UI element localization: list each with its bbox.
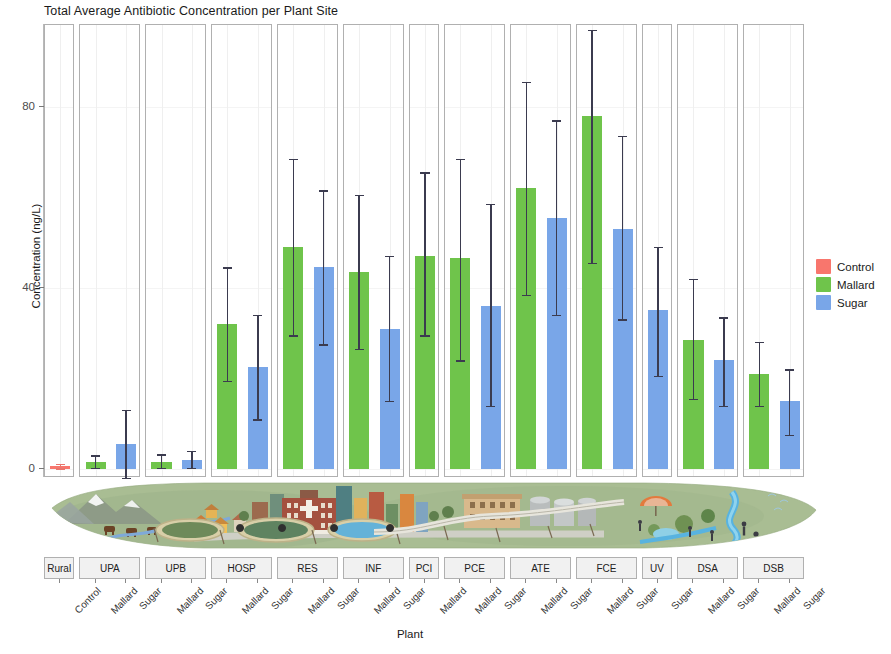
- x-tick-mark: [723, 579, 724, 583]
- x-tick-mark: [692, 579, 693, 583]
- error-cap-upper: [552, 120, 561, 121]
- x-tick-mark: [525, 579, 526, 583]
- legend-label-sugar: Sugar: [837, 297, 868, 309]
- x-tick-mark: [556, 579, 557, 583]
- y-tick-mark: [39, 106, 44, 107]
- gridline-horizontal: [678, 107, 737, 108]
- error-cap-lower: [223, 381, 232, 382]
- y-tick-label-80: 80: [22, 100, 35, 112]
- error-bar-upa-sugar: [125, 410, 126, 478]
- error-cap-upper: [719, 317, 728, 318]
- error-cap-upper: [253, 315, 262, 316]
- error-bar-pci-mallard: [424, 172, 425, 335]
- error-cap-upper: [785, 369, 794, 370]
- error-cap-upper: [157, 454, 166, 455]
- facet-panel-hosp: [211, 24, 272, 477]
- error-cap-lower: [289, 335, 298, 336]
- x-tick-label-dsb-mallard: Mallard: [772, 585, 803, 616]
- x-tick-label-pce-mallard: Mallard: [473, 585, 504, 616]
- facet-strip-label-uv: UV: [642, 557, 672, 579]
- x-tick-mark: [789, 579, 790, 583]
- error-cap-lower: [552, 315, 561, 316]
- gridline-horizontal: [45, 288, 73, 289]
- facet-strip-label-pce: PCE: [444, 557, 505, 579]
- y-tick-label-40: 40: [22, 281, 35, 293]
- error-cap-lower: [253, 419, 262, 420]
- gridline-horizontal: [445, 469, 504, 470]
- facet-strip-label-rural: Rural: [44, 557, 74, 579]
- error-cap-lower: [785, 435, 794, 436]
- facet-panel-rural: [44, 24, 74, 477]
- facet-panel-ate: [510, 24, 571, 477]
- legend: ControlMallardSugar: [816, 258, 875, 312]
- gridline-horizontal: [577, 469, 636, 470]
- error-cap-lower: [122, 478, 131, 479]
- facet-strip-label-pci: PCI: [409, 557, 439, 579]
- facet-strip-label-upb: UPB: [145, 557, 206, 579]
- legend-label-mallard: Mallard: [837, 279, 875, 291]
- error-bar-res-mallard: [293, 159, 294, 336]
- error-cap-upper: [122, 410, 131, 411]
- gridline-horizontal: [80, 288, 139, 289]
- gridline-horizontal: [643, 469, 671, 470]
- legend-item-sugar: Sugar: [816, 294, 875, 311]
- gridline-horizontal: [344, 469, 403, 470]
- error-bar-pce-mallard: [460, 159, 461, 361]
- error-cap-upper: [755, 342, 764, 343]
- error-cap-upper: [91, 455, 100, 456]
- y-tick-mark: [39, 468, 44, 469]
- facet-strip-label-fce: FCE: [576, 557, 637, 579]
- gridline-horizontal: [80, 469, 139, 470]
- gridline-horizontal: [744, 288, 803, 289]
- gridline-horizontal: [80, 107, 139, 108]
- x-tick-mark: [226, 579, 227, 583]
- legend-item-control: Control: [816, 258, 875, 275]
- x-tick-label-dsb-sugar: Sugar: [801, 585, 828, 612]
- gridline-horizontal: [410, 469, 438, 470]
- gridline-horizontal: [577, 107, 636, 108]
- gridline-horizontal: [212, 107, 271, 108]
- error-cap-lower: [187, 468, 196, 469]
- y-tick-label-0: 0: [29, 462, 35, 474]
- gridline-horizontal: [212, 288, 271, 289]
- gridline-vertical: [192, 25, 193, 476]
- error-cap-lower: [355, 349, 364, 350]
- facet-panel-upb: [145, 24, 206, 477]
- error-cap-upper: [385, 256, 394, 257]
- x-tick-label-res-mallard: Mallard: [306, 585, 337, 616]
- error-cap-lower: [420, 335, 429, 336]
- facet-panel-pce: [444, 24, 505, 477]
- gridline-vertical: [126, 25, 127, 476]
- error-bar-hosp-sugar: [257, 315, 258, 419]
- x-tick-mark: [758, 579, 759, 583]
- gridline-vertical: [96, 25, 97, 476]
- error-bar-dsb-mallard: [759, 342, 760, 405]
- x-tick-label-pci-mallard: Mallard: [438, 585, 469, 616]
- error-cap-lower: [618, 319, 627, 320]
- facet-panel-upa: [79, 24, 140, 477]
- gridline-horizontal: [445, 107, 504, 108]
- x-tick-mark: [95, 579, 96, 583]
- x-tick-label-ate-mallard: Mallard: [539, 585, 570, 616]
- error-bar-res-sugar: [323, 190, 324, 344]
- x-tick-mark: [657, 579, 658, 583]
- error-bar-inf-mallard: [358, 195, 359, 349]
- error-bar-hosp-mallard: [227, 267, 228, 380]
- error-bar-dsb-sugar: [789, 369, 790, 435]
- x-tick-label-res-sugar: Sugar: [335, 585, 362, 612]
- facet-strip-label-res: RES: [277, 557, 338, 579]
- x-tick-label-rural-control: Control: [73, 585, 104, 616]
- page-title: Total Average Antibiotic Concentration p…: [44, 4, 338, 18]
- error-cap-lower: [719, 406, 728, 407]
- x-tick-mark: [59, 579, 60, 583]
- x-tick-mark: [389, 579, 390, 583]
- error-cap-upper: [223, 267, 232, 268]
- error-cap-lower: [385, 401, 394, 402]
- error-bar-fce-mallard: [591, 30, 592, 263]
- gridline-horizontal: [678, 288, 737, 289]
- facet-strip-label-upa: UPA: [79, 557, 140, 579]
- error-bar-upb-sugar: [191, 451, 192, 468]
- x-tick-label-upa-sugar: Sugar: [137, 585, 164, 612]
- facet-panel-res: [277, 24, 338, 477]
- y-tick-mark: [39, 287, 44, 288]
